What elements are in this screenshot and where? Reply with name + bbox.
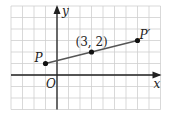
coordinate-figure: P(3, 2)P′ x y O	[0, 0, 170, 120]
point-m-dot	[89, 49, 94, 54]
point-pprime-label: P′	[139, 28, 151, 42]
y-axis-label: y	[61, 4, 69, 18]
coordinate-plane: P(3, 2)P′ x y O	[0, 0, 170, 120]
grid-lines	[11, 6, 161, 110]
points: P(3, 2)P′	[34, 28, 151, 67]
origin-label: O	[46, 77, 56, 91]
point-p-dot	[43, 61, 48, 66]
point-p-label: P	[34, 51, 44, 65]
point-m-label: (3, 2)	[76, 35, 108, 49]
x-axis-label: x	[154, 77, 161, 91]
